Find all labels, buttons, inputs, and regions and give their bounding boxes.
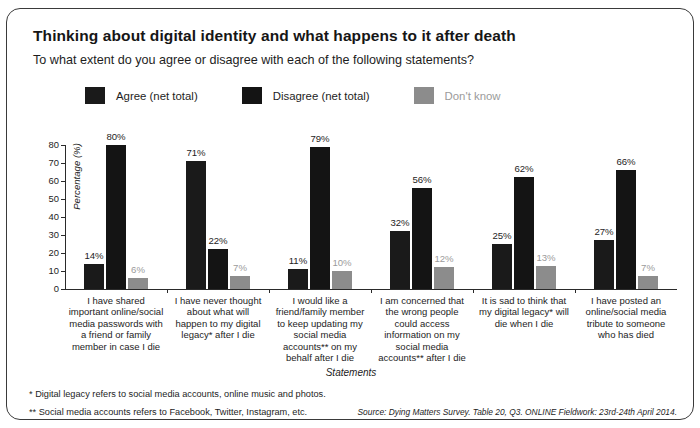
bar-value-label: 10% [332, 258, 351, 268]
bar-group: 32%56%12% [371, 145, 473, 289]
x-axis-label: Statements [7, 367, 695, 378]
bar-2-5[interactable]: 7% [638, 276, 658, 289]
legend-swatch-icon [85, 87, 105, 104]
x-tick-mark [371, 289, 372, 293]
y-tick-label: 30 [39, 230, 59, 239]
bar-1-5[interactable]: 66% [616, 170, 636, 289]
category-label-2: I would like a friend/family member to k… [269, 295, 371, 363]
bar-0-0[interactable]: 14% [84, 264, 104, 289]
x-tick-mark [473, 289, 474, 293]
chart-card: Thinking about digital identity and what… [6, 8, 694, 420]
y-tick-label: 60 [39, 176, 59, 185]
x-tick-mark [269, 289, 270, 293]
bar-value-label: 66% [616, 157, 635, 167]
bar-1-3[interactable]: 56% [412, 188, 432, 289]
bar-0-4[interactable]: 25% [492, 244, 512, 289]
category-label-5: I have posted an online/social media tri… [575, 295, 677, 363]
x-tick-mark [167, 289, 168, 293]
legend-swatch-icon [242, 87, 262, 104]
legend-label: Don't know [445, 90, 501, 102]
bar-group: 27%66%7% [575, 145, 677, 289]
bar-1-2[interactable]: 79% [310, 147, 330, 289]
y-tick-label: 70 [39, 158, 59, 167]
footnote-one: * Digital legacy refers to social media … [29, 389, 326, 399]
legend-label: Agree (net total) [116, 90, 198, 102]
bar-value-label: 71% [186, 148, 205, 158]
bar-0-5[interactable]: 27% [594, 240, 614, 289]
bar-2-3[interactable]: 12% [434, 267, 454, 289]
bar-value-label: 27% [594, 227, 613, 237]
category-label-4: It is sad to think that my digital legac… [473, 295, 575, 363]
chart-legend: Agree (net total)Disagree (net total)Don… [85, 87, 545, 104]
bar-2-4[interactable]: 13% [536, 266, 556, 289]
y-tick-label: 50 [39, 194, 59, 203]
page-subtitle: To what extent do you agree or disagree … [33, 53, 474, 67]
bar-value-label: 6% [131, 265, 145, 275]
y-tick-mark [61, 289, 65, 290]
bar-value-label: 7% [641, 263, 655, 273]
bar-value-label: 14% [84, 251, 103, 261]
legend-swatch-icon [414, 87, 434, 104]
legend-item-1: Disagree (net total) [242, 87, 370, 104]
bar-value-label: 12% [434, 254, 453, 264]
bar-2-1[interactable]: 7% [230, 276, 250, 289]
bar-2-2[interactable]: 10% [332, 271, 352, 289]
legend-item-2: Don't know [414, 87, 501, 104]
bar-value-label: 62% [514, 164, 533, 174]
x-tick-mark [575, 289, 576, 293]
bar-value-label: 25% [492, 231, 511, 241]
bar-value-label: 56% [412, 175, 431, 185]
bar-groups: 14%80%6%71%22%7%11%79%10%32%56%12%25%62%… [65, 145, 677, 289]
bar-0-2[interactable]: 11% [288, 269, 308, 289]
y-tick-label: 20 [39, 248, 59, 257]
page-title: Thinking about digital identity and what… [33, 27, 516, 45]
bar-value-label: 32% [390, 218, 409, 228]
y-tick-label: 0 [39, 284, 59, 293]
bar-0-1[interactable]: 71% [186, 161, 206, 289]
y-tick-label: 80 [39, 140, 59, 149]
source-note: Source: Dying Matters Survey. Table 20, … [358, 407, 677, 417]
bar-2-0[interactable]: 6% [128, 278, 148, 289]
x-axis-category-labels: I have shared important online/social me… [65, 295, 677, 363]
bar-0-3[interactable]: 32% [390, 231, 410, 289]
bar-value-label: 22% [208, 236, 227, 246]
bar-value-label: 7% [233, 263, 247, 273]
bar-group: 71%22%7% [167, 145, 269, 289]
y-tick-label: 10 [39, 266, 59, 275]
bar-value-label: 79% [310, 134, 329, 144]
bar-value-label: 13% [536, 253, 555, 263]
category-label-3: I am concerned that the wrong people cou… [371, 295, 473, 363]
bar-group: 11%79%10% [269, 145, 371, 289]
legend-label: Disagree (net total) [273, 90, 370, 102]
bar-1-4[interactable]: 62% [514, 177, 534, 289]
chart-plot-area: Percentage (%) 01020304050607080 14%80%6… [65, 145, 677, 289]
category-label-1: I have never thought about what will hap… [167, 295, 269, 363]
bar-1-1[interactable]: 22% [208, 249, 228, 289]
bar-group: 14%80%6% [65, 145, 167, 289]
category-label-0: I have shared important online/social me… [65, 295, 167, 363]
bar-1-0[interactable]: 80% [106, 145, 126, 289]
legend-item-0: Agree (net total) [85, 87, 198, 104]
bar-group: 25%62%13% [473, 145, 575, 289]
y-tick-label: 40 [39, 212, 59, 221]
footnote-two: ** Social media accounts refers to Faceb… [29, 407, 307, 417]
bar-value-label: 11% [289, 256, 308, 266]
bar-value-label: 80% [106, 132, 125, 142]
